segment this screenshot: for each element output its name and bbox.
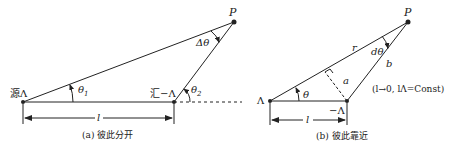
source-label: 源Λ: [10, 87, 28, 99]
length-label-b: l: [306, 114, 309, 125]
point-p-label: P: [228, 6, 237, 19]
b-label: b: [386, 58, 392, 69]
theta1-label: θ1: [78, 84, 89, 98]
sink-label-b: −Λ: [329, 105, 345, 116]
source-sink-diagram: 源Λ 汇−Λ P θ1 θ2 Δθ l (a) 彼此分开 Λ −Λ P θ dθ…: [0, 0, 461, 151]
caption-b: (b) 彼此靠近: [316, 130, 368, 141]
a-label: a: [343, 75, 349, 86]
condition-label: (l→0, lΛ=Const): [372, 84, 444, 94]
caption-a: (a) 彼此分开: [82, 129, 133, 140]
theta-label: θ: [303, 89, 309, 100]
point-p-label-b: P: [403, 6, 412, 19]
delta-theta-label: Δθ: [195, 37, 209, 48]
length-label-a: l: [97, 112, 100, 123]
source-label-b: Λ: [256, 95, 265, 106]
sink-label: 汇−Λ: [150, 87, 176, 99]
theta2-label: θ2: [191, 84, 202, 98]
d-theta-label: dθ: [371, 46, 383, 57]
